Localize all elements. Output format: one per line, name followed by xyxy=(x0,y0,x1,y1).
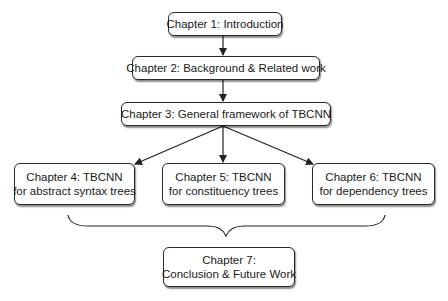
node-chapter-6-subtitle: for dependency trees xyxy=(319,184,427,198)
curly-brace-icon xyxy=(68,215,385,236)
node-chapter-2: Chapter 2: Background & Related work xyxy=(132,56,320,80)
node-chapter-3-label: Chapter 3: General framework of TBCNN xyxy=(121,107,331,121)
node-chapter-6: Chapter 6: TBCNN for dependency trees xyxy=(312,163,435,205)
node-chapter-5: Chapter 5: TBCNN for constituency trees xyxy=(162,163,285,205)
thesis-structure-diagram: Chapter 1: Introduction Chapter 2: Backg… xyxy=(0,0,448,301)
node-chapter-4-subtitle: for abstract syntax trees xyxy=(13,184,136,198)
node-chapter-4: Chapter 4: TBCNN for abstract syntax tre… xyxy=(14,163,135,205)
node-chapter-3: Chapter 3: General framework of TBCNN xyxy=(121,102,331,126)
node-chapter-7-title: Chapter 7: xyxy=(202,253,256,267)
node-chapter-1: Chapter 1: Introduction xyxy=(168,12,282,36)
node-chapter-7-subtitle: Conclusion & Future Work xyxy=(162,267,296,281)
node-chapter-1-label: Chapter 1: Introduction xyxy=(167,17,284,31)
arrow-ch3-to-ch4 xyxy=(135,126,223,164)
node-chapter-7: Chapter 7: Conclusion & Future Work xyxy=(163,247,295,287)
node-chapter-2-label: Chapter 2: Background & Related work xyxy=(126,61,325,75)
node-chapter-5-subtitle: for constituency trees xyxy=(169,184,278,198)
node-chapter-4-title: Chapter 4: TBCNN xyxy=(26,170,122,184)
node-chapter-6-title: Chapter 6: TBCNN xyxy=(325,170,421,184)
node-chapter-5-title: Chapter 5: TBCNN xyxy=(175,170,271,184)
arrow-ch3-to-ch6 xyxy=(223,126,313,164)
